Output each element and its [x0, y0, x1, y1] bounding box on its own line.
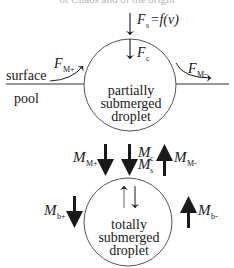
m-b-minus-symbol: M — [197, 202, 212, 218]
m-b-plus-symbol: M — [43, 202, 58, 218]
m-marangoni-plus-sub: M+ — [86, 159, 98, 168]
m-marangoni-plus-symbol: M — [72, 149, 87, 165]
m-c-s-arrow-icon — [121, 144, 138, 176]
m-b-plus-arrow-icon — [66, 196, 83, 228]
coalescence-force-symbol: F — [136, 45, 146, 60]
surface-label: surface — [6, 68, 46, 83]
m-marangoni-minus-sub: M- — [187, 159, 197, 168]
surface-force-suffix: =f(v) — [150, 12, 179, 28]
m-marangoni-plus-arrow-icon — [97, 144, 114, 176]
coalescence-force-sub: c — [146, 54, 150, 63]
m-b-plus-sub: b+ — [57, 212, 66, 221]
m-b-minus-sub: b- — [211, 212, 218, 221]
m-s-sub: s — [150, 166, 153, 175]
marangoni-minus-sub: M- — [197, 70, 207, 79]
droplet-force-diagram: of Chaos and of the origin surface pool … — [0, 0, 234, 268]
surface-force-sub: s — [146, 21, 149, 30]
top-droplet-line3: droplet — [111, 109, 151, 124]
pool-label: pool — [14, 91, 39, 106]
bottom-droplet-line3: droplet — [109, 243, 149, 258]
m-c-sub: c — [150, 154, 154, 163]
m-marangoni-minus-arrow-icon — [156, 144, 173, 176]
m-marangoni-minus-symbol: M — [173, 149, 188, 165]
m-b-minus-arrow-icon — [180, 196, 197, 228]
marangoni-plus-symbol: F — [53, 56, 63, 71]
marangoni-plus-sub: M+ — [63, 65, 75, 74]
marangoni-minus-symbol: F — [187, 61, 197, 76]
surface-force-symbol: F — [136, 12, 146, 27]
clipped-caption: of Chaos and of the origin — [59, 0, 175, 5]
caption-text: of Chaos and of the origin — [59, 0, 175, 5]
